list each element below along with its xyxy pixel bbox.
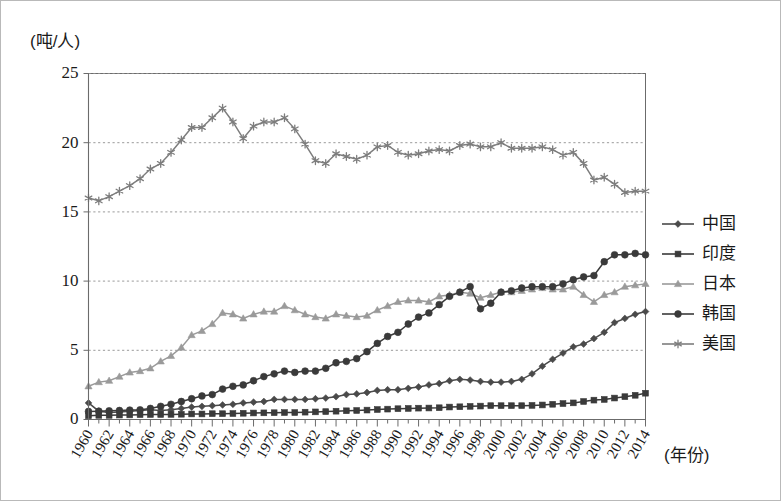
emissions-per-capita-line-chart: (吨/人) (年份) 0510152025 196019621964196619…: [0, 0, 781, 501]
series-marker-韩国-2001: [508, 287, 515, 294]
y-tick-label-10: 10: [62, 271, 79, 290]
series-marker-印度-2013: [632, 392, 638, 398]
series-marker-韩国-1989: [384, 333, 391, 340]
series-marker-印度-1982: [313, 409, 319, 415]
series-marker-印度-2014: [643, 390, 649, 396]
legend-label-美国: 美国: [702, 334, 736, 353]
series-marker-韩国-1997: [467, 283, 474, 290]
series-marker-韩国-1968: [168, 401, 175, 408]
series-marker-韩国-1971: [199, 393, 206, 400]
series-marker-韩国-1978: [271, 370, 278, 377]
series-marker-韩国-1992: [415, 314, 422, 321]
series-marker-印度-1977: [261, 410, 267, 416]
series-marker-韩国-1967: [157, 403, 164, 410]
series-marker-印度-1993: [426, 405, 432, 411]
series-marker-印度-1991: [405, 406, 411, 412]
series-marker-韩国-1986: [353, 355, 360, 362]
series-marker-韩国-1980: [291, 369, 298, 376]
y-tick-label-25: 25: [62, 63, 79, 82]
series-marker-韩国-2005: [549, 283, 556, 290]
series-marker-印度-1980: [292, 410, 298, 416]
series-marker-印度-2005: [550, 401, 556, 407]
series-marker-韩国-1981: [302, 368, 309, 375]
series-marker-印度-1970: [189, 411, 195, 417]
series-marker-韩国-1963: [116, 407, 123, 414]
series-marker-印度-1975: [240, 410, 246, 416]
series-marker-印度-2007: [570, 400, 576, 406]
series-marker-韩国-2011: [611, 251, 618, 258]
series-marker-印度-1971: [199, 411, 205, 417]
series-marker-韩国-2013: [632, 250, 639, 257]
series-marker-韩国-2000: [498, 289, 505, 296]
series-marker-韩国-2007: [570, 276, 577, 283]
series-marker-印度-1966: [147, 412, 153, 418]
circle-icon: [675, 311, 682, 318]
series-marker-印度-1990: [395, 406, 401, 412]
series-marker-印度-1999: [488, 403, 494, 409]
series-marker-印度-2002: [519, 403, 525, 409]
series-marker-印度-1983: [323, 409, 329, 415]
series-marker-韩国-1983: [322, 365, 329, 372]
series-marker-韩国-1991: [405, 321, 412, 328]
series-marker-印度-2004: [539, 402, 545, 408]
series-marker-印度-2003: [529, 402, 535, 408]
series-marker-韩国-1961: [95, 408, 102, 415]
legend-label-韩国: 韩国: [702, 304, 736, 323]
series-marker-韩国-1966: [147, 405, 154, 412]
figure-border: [1, 1, 781, 501]
series-marker-韩国-1985: [343, 358, 350, 365]
legend-label-日本: 日本: [702, 274, 736, 293]
series-marker-印度-1985: [343, 408, 349, 414]
series-marker-印度-2012: [622, 394, 628, 400]
series-marker-韩国-1973: [219, 386, 226, 393]
series-marker-韩国-2002: [518, 285, 525, 292]
series-marker-韩国-1962: [106, 407, 113, 414]
series-marker-韩国-1965: [137, 406, 144, 413]
series-marker-印度-1968: [168, 411, 174, 417]
series-marker-印度-1996: [457, 404, 463, 410]
series-marker-韩国-2009: [591, 272, 598, 279]
series-marker-韩国-1988: [374, 340, 381, 347]
legend-label-中国: 中国: [702, 214, 736, 233]
series-marker-印度-1987: [364, 407, 370, 413]
series-marker-韩国-1969: [178, 398, 185, 405]
series-marker-韩国-1995: [446, 293, 453, 300]
series-marker-印度-1981: [302, 409, 308, 415]
series-marker-韩国-1975: [240, 382, 247, 389]
series-marker-韩国-1998: [477, 305, 484, 312]
series-marker-韩国-1970: [188, 395, 195, 402]
y-tick-label-5: 5: [70, 340, 79, 359]
series-marker-印度-2000: [498, 403, 504, 409]
series-marker-韩国-1977: [260, 373, 267, 380]
series-marker-韩国-1990: [395, 329, 402, 336]
series-marker-印度-1994: [436, 405, 442, 411]
series-marker-印度-2010: [601, 397, 607, 403]
y-tick-label-15: 15: [62, 202, 79, 221]
series-marker-印度-2011: [612, 395, 618, 401]
series-marker-印度-2006: [560, 401, 566, 407]
legend-label-印度: 印度: [702, 244, 736, 263]
square-icon: [675, 251, 681, 257]
series-marker-印度-1972: [209, 411, 215, 417]
series-marker-印度-1979: [282, 410, 288, 416]
series-marker-韩国-1994: [436, 301, 443, 308]
series-marker-印度-1984: [333, 408, 339, 414]
series-marker-韩国-2010: [601, 258, 608, 265]
y-tick-label-0: 0: [70, 409, 79, 428]
series-marker-韩国-2014: [642, 251, 649, 258]
series-marker-韩国-1979: [281, 368, 288, 375]
y-tick-label-20: 20: [62, 133, 79, 152]
x-axis-title: (年份): [664, 446, 709, 465]
series-marker-韩国-1984: [333, 359, 340, 366]
series-marker-韩国-2012: [621, 251, 628, 258]
series-marker-印度-2008: [581, 399, 587, 405]
series-marker-韩国-1976: [250, 377, 257, 384]
series-marker-韩国-2003: [529, 283, 536, 290]
series-marker-印度-1978: [271, 410, 277, 416]
series-marker-韩国-1982: [312, 368, 319, 375]
series-marker-印度-1967: [158, 412, 164, 418]
series-marker-韩国-1999: [487, 300, 494, 307]
series-marker-印度-1998: [478, 403, 484, 409]
series-marker-印度-1976: [251, 410, 257, 416]
series-marker-韩国-2008: [580, 274, 587, 281]
